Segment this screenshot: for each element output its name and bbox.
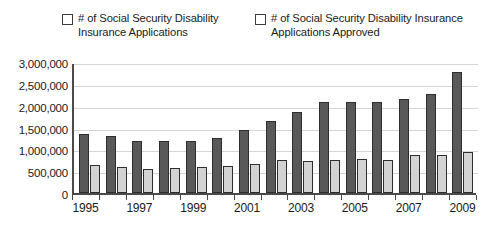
bar [212,138,222,193]
x-axis-tick [153,195,154,200]
x-axis-tick [368,195,369,200]
x-axis-ticks [72,195,476,200]
x-axis-label: 2007 [386,201,432,216]
bar [143,169,153,193]
bar [90,165,100,193]
bar-series-container [74,62,478,193]
y-axis-label: 0 [0,189,68,201]
x-axis-label: 1995 [62,201,108,216]
bar [186,141,196,193]
bar-chart: # of Social Security Disability Insuranc… [0,0,494,230]
bar [372,102,382,193]
y-axis-label: 2,500,000 [0,80,68,92]
x-axis-tick [395,195,396,200]
bar [132,141,142,193]
year-group [449,62,476,193]
y-axis-label: 1,500,000 [0,124,68,136]
legend-label: # of Social Security Disability Insuranc… [78,12,252,39]
bar [117,167,127,193]
x-axis-tick [207,195,208,200]
legend-label: # of Social Security Disability Insuranc… [271,12,490,39]
year-group [396,62,423,193]
x-axis-tick [422,195,423,200]
x-axis-tick [476,195,477,200]
x-axis-tick [341,195,342,200]
bar [383,160,393,193]
bar [319,102,329,193]
x-axis-tick [126,195,127,200]
legend-entry-applications: # of Social Security Disability Insuranc… [62,12,252,39]
y-axis-label: 2,000,000 [0,102,68,114]
year-group [369,62,396,193]
x-axis-label: 2003 [278,201,324,216]
y-axis-label: 500,000 [0,167,68,179]
bar [346,102,356,193]
x-axis-tick [261,195,262,200]
bar [357,159,367,193]
year-group [156,62,183,193]
x-axis-tick [314,195,315,200]
year-group [236,62,263,193]
legend-swatch-icon [255,14,266,25]
bar [410,155,420,193]
x-axis-label: 2001 [224,201,270,216]
year-group [263,62,290,193]
year-group [183,62,210,193]
bar [330,160,340,193]
bar [239,130,249,193]
x-axis-label: 1997 [116,201,162,216]
year-group [209,62,236,193]
x-axis: 19951997199920012003200520072009 [72,201,476,219]
legend-swatch-icon [62,14,73,25]
x-axis-label: 1999 [170,201,216,216]
x-axis-tick [180,195,181,200]
bar [79,134,89,193]
bar [452,72,462,193]
year-group [423,62,450,193]
bar [463,152,473,193]
legend-entry-approved: # of Social Security Disability Insuranc… [255,12,490,39]
year-group [343,62,370,193]
y-axis-label: 3,000,000 [0,58,68,70]
bar [399,99,409,193]
bar [106,136,116,193]
x-axis-label: 2009 [440,201,486,216]
bar [197,167,207,193]
y-axis: 3,000,0002,500,0002,000,0001,500,0001,00… [0,58,68,201]
x-axis-tick [449,195,450,200]
x-axis-label: 2005 [332,201,378,216]
bar [266,121,276,193]
x-axis-tick [72,195,73,200]
y-axis-label: 1,000,000 [0,145,68,157]
x-axis-tick [287,195,288,200]
bar [292,112,302,193]
chart-legend: # of Social Security Disability Insuranc… [0,8,494,52]
year-group [316,62,343,193]
bar [170,168,180,193]
bar [250,164,260,193]
bar [159,141,169,193]
bar [223,166,233,193]
bar [426,94,436,193]
year-group [76,62,103,193]
year-group [289,62,316,193]
bar [303,161,313,193]
year-group [103,62,130,193]
bar [437,155,447,193]
x-axis-tick [234,195,235,200]
bar [277,160,287,193]
plot-area [72,64,476,195]
year-group [129,62,156,193]
x-axis-tick [99,195,100,200]
